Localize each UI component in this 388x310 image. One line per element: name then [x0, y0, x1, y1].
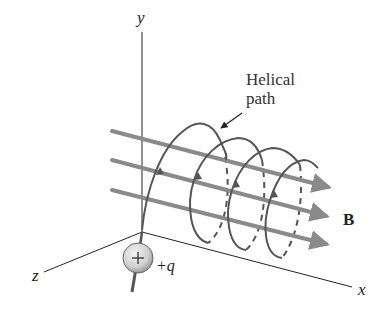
field-line-middle [112, 160, 326, 216]
annotation-line-1: Helical [246, 70, 295, 89]
charge-label: +q [156, 257, 175, 275]
y-axis-label: y [137, 8, 145, 28]
z-axis-label: z [32, 266, 39, 286]
x-axis-label: x [358, 280, 366, 300]
diagram-graphics [0, 0, 388, 310]
helix-direction-arrows [156, 167, 278, 198]
annotation-pointer-arrow [221, 113, 242, 128]
helical-path-diagram: y z x Helical path B +q [0, 0, 388, 310]
magnetic-field-label: B [343, 210, 354, 230]
charge-particle [123, 232, 153, 292]
annotation-line-2: path [246, 89, 295, 108]
helical-path-annotation: Helical path [246, 70, 295, 108]
